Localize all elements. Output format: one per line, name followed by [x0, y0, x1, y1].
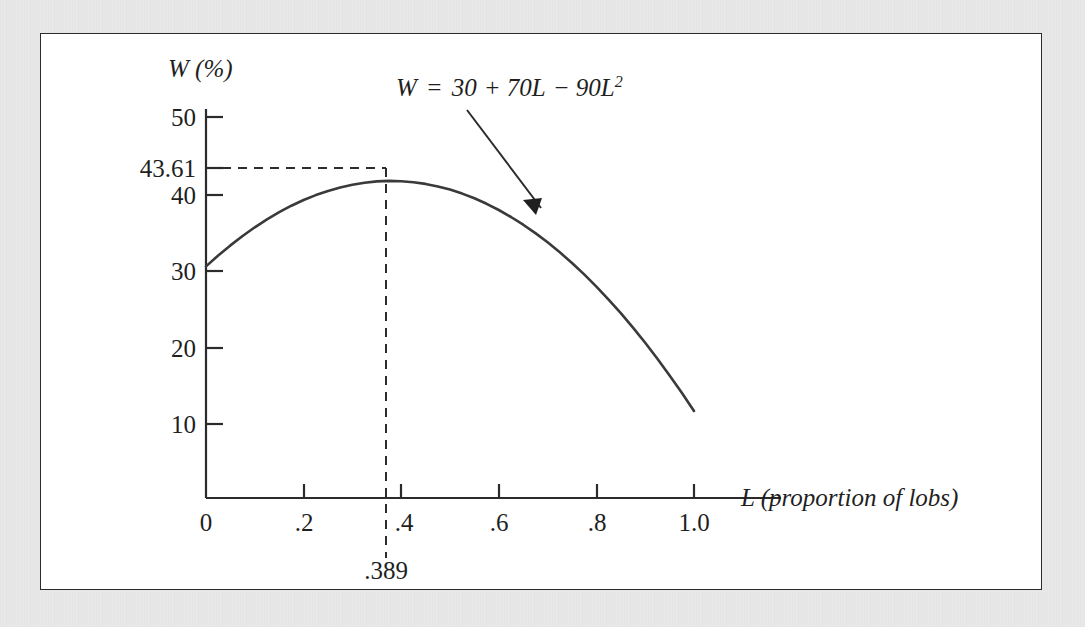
parabola-chart: 50 40 30 20 10 43.61 0 .2 .4 .6 .8 1.0	[41, 34, 1041, 589]
y-tick-label-10: 10	[171, 411, 196, 438]
equation-equals: =	[426, 74, 443, 101]
parabola-curve	[206, 181, 694, 411]
x-tick-marks	[304, 484, 694, 498]
figure-page: 50 40 30 20 10 43.61 0 .2 .4 .6 .8 1.0	[0, 0, 1085, 627]
x-tick-label-0-4: .4	[395, 509, 414, 536]
y-tick-label-30: 30	[171, 258, 196, 285]
y-tick-label-20: 20	[171, 335, 196, 362]
x-tick-label-0: 0	[200, 509, 213, 536]
x-tick-label-0-6: .6	[490, 509, 509, 536]
vertex-x-label: .389	[364, 557, 408, 584]
equation-exponent: 2	[615, 73, 623, 90]
annotation-arrow-shaft	[467, 110, 541, 208]
equation-quadratic-term: − 90L	[553, 74, 615, 101]
equation-constant: 30	[451, 74, 478, 101]
y-tick-label-50: 50	[171, 104, 196, 131]
x-tick-label-0-8: .8	[588, 509, 607, 536]
y-tick-label-40: 40	[171, 182, 196, 209]
equation-label: W=30+ 70L− 90L2	[396, 73, 623, 101]
y-tick-marks	[206, 117, 223, 424]
equation-lhs: W	[396, 74, 419, 101]
x-axis-title: L (proportion of lobs)	[740, 484, 958, 512]
equation-annotation: W=30+ 70L− 90L2	[396, 73, 623, 215]
vertex-y-label: 43.61	[140, 155, 196, 182]
y-axis-title: W (%)	[168, 55, 233, 83]
x-tick-label-1-0: 1.0	[678, 509, 709, 536]
equation-linear-term: + 70L	[484, 74, 546, 101]
x-tick-label-0-2: .2	[295, 509, 314, 536]
figure-frame: 50 40 30 20 10 43.61 0 .2 .4 .6 .8 1.0	[40, 33, 1042, 590]
